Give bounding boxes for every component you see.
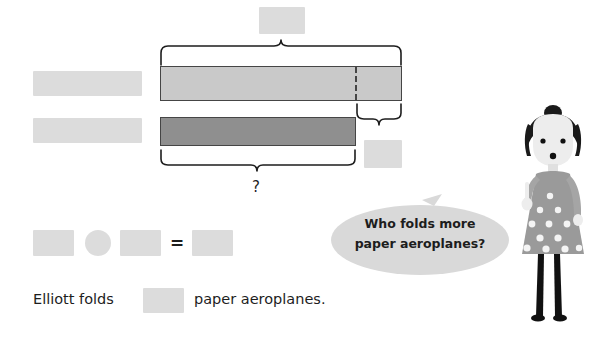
unknown-question-mark: ? [252, 178, 260, 196]
equation-answer-box[interactable] [192, 230, 233, 256]
top-row-label-box[interactable] [33, 71, 142, 96]
speech-bubble-text: Who folds more paper aeroplanes? [330, 214, 510, 254]
light-bar [160, 66, 402, 101]
sentence-suffix: paper aeroplanes. [194, 291, 326, 307]
worksheet-canvas: ? = Elliott folds paper aeroplanes. Who … [0, 0, 604, 339]
equals-sign: = [170, 233, 184, 253]
speech-bubble-line1: Who folds more [330, 214, 510, 234]
brace-bottom-total [160, 149, 356, 173]
dark-bar [160, 117, 356, 146]
sentence-prefix: Elliott folds [33, 291, 114, 307]
total-answer-box[interactable] [259, 7, 305, 34]
brace-top-total [160, 44, 402, 66]
girl-character [498, 104, 602, 339]
girl-character-drawing [498, 104, 602, 339]
speech-bubble-line2: paper aeroplanes? [330, 234, 510, 254]
speech-bubble: Who folds more paper aeroplanes? [330, 192, 520, 278]
difference-answer-box[interactable] [364, 140, 402, 168]
bar-dashed-divider [355, 67, 357, 100]
equation-right-box[interactable] [120, 230, 161, 256]
bottom-row-label-box[interactable] [33, 118, 142, 143]
equation-left-box[interactable] [33, 230, 74, 256]
sentence-answer-box[interactable] [143, 288, 184, 313]
brace-difference [356, 103, 402, 127]
equation-operator-circle[interactable] [85, 230, 111, 256]
